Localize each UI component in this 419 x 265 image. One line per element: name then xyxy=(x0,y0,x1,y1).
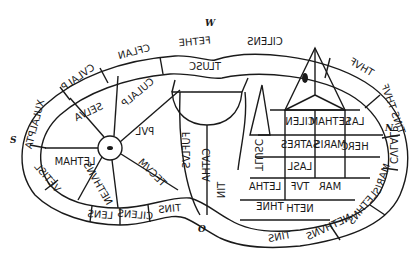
inner-inscription: HERC xyxy=(341,141,368,152)
inner-inscription: TIN xyxy=(216,181,227,199)
inner-inscription: TECVM xyxy=(136,156,169,189)
inner-inscription: LAS xyxy=(346,116,365,127)
inner-inscription: LETHA xyxy=(249,181,282,192)
inner-inscription: NETH xyxy=(286,203,313,214)
inner-inscription: PVL xyxy=(135,126,154,137)
inner-inscription: LETHAM xyxy=(310,116,351,127)
ring-inscription: MARIS xyxy=(371,162,392,196)
ring-inscription: CFLAN xyxy=(117,42,152,61)
inner-inscription: NETHVNS xyxy=(81,160,115,207)
inner-inscription: TLUSC xyxy=(189,61,222,72)
gall-bladder xyxy=(172,92,242,125)
ring-inscription: NETHVNS xyxy=(304,212,352,242)
inner-inscription: TLUSC xyxy=(253,139,264,172)
inner-inscription: MAR xyxy=(319,181,341,192)
ring-inscription: CILENS xyxy=(247,36,283,47)
inner-inscription: THNE xyxy=(256,201,284,212)
compass-south: S xyxy=(10,135,17,145)
inner-inscription: LASL xyxy=(287,161,312,172)
ring-inscription: CVLALP xyxy=(59,62,97,93)
inner-inscription: SATRES xyxy=(281,139,319,150)
inner-inscription: TVF xyxy=(290,181,310,192)
compass-west: W xyxy=(205,18,216,28)
inner-inscription: CATHA xyxy=(201,148,212,182)
inner-inscription: MARIS xyxy=(314,139,346,150)
ring-inscription: FETHE xyxy=(178,35,211,49)
ring-inscription: LENS xyxy=(87,208,114,221)
inner-inscription: CULALP xyxy=(119,76,156,109)
inner-inscription: FUFLVS xyxy=(181,132,192,168)
ring-inscription: CVLALP xyxy=(388,126,399,164)
compass-origin: O xyxy=(198,224,206,234)
liver-diagram: W S N O CILENSFETHECFLANCVLALPXULALPTAVE… xyxy=(0,0,419,265)
ring-inscription: TINS xyxy=(158,202,183,215)
ring-inscription: CILENS xyxy=(117,207,153,221)
